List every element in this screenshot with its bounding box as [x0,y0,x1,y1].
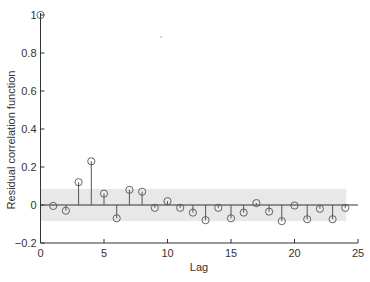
x-tick-label: 20 [288,247,300,259]
y-tick-label: 0.4 [21,123,36,135]
x-tick-label: 5 [101,247,107,259]
y-tick-label: 0.2 [21,161,36,173]
y-tick-label: −0.2 [15,237,37,249]
y-tick-label: 1 [30,9,36,21]
stray-dot [160,36,161,37]
y-tick-label: 0.6 [21,85,36,97]
y-axis-label: Residual correlation function [5,71,17,210]
x-tick-label: 0 [37,247,43,259]
x-tick-label: 15 [225,247,237,259]
x-axis-label: Lag [190,261,208,273]
x-tick-label: 25 [352,247,364,259]
y-tick-label: 0.8 [21,47,36,59]
residual-correlation-chart: 0510152025−0.200.20.40.60.81 Lag Residua… [0,0,370,282]
x-tick-label: 10 [161,247,173,259]
y-tick-label: 0 [30,199,36,211]
tick-labels: 0510152025−0.200.20.40.60.81 [15,9,364,259]
